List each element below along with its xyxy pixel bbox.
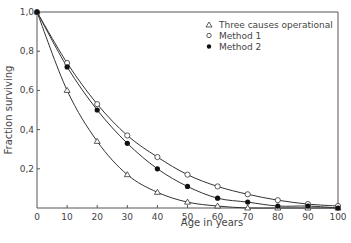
filled-circle-marker [65, 64, 70, 69]
filled-circle-marker [34, 9, 39, 14]
triangle-icon [206, 22, 212, 27]
survival-chart: 0102030405060708090100 0,20,40,60,81,0 A… [0, 0, 351, 243]
filled-circle-marker [155, 166, 160, 171]
legend-label: Method 2 [219, 42, 261, 52]
x-tick-label: 20 [91, 212, 103, 222]
filled-circle-marker [275, 203, 280, 208]
x-axis-label: Age in years [181, 217, 243, 228]
x-tick-label: 70 [242, 212, 254, 222]
filled-circle-icon [207, 44, 211, 48]
x-tick-label: 100 [329, 212, 346, 222]
plot-frame [37, 12, 338, 208]
filled-circle-marker [125, 141, 130, 146]
open-circle-marker [245, 192, 250, 197]
x-tick-label: 80 [272, 212, 284, 222]
filled-circle-marker [245, 200, 250, 205]
series-curves [37, 12, 338, 208]
open-circle-icon [207, 33, 211, 37]
legend-label: Three causes operational [218, 20, 333, 30]
open-circle-marker [95, 102, 100, 107]
y-tick-label: 0,4 [20, 125, 35, 135]
legend-label: Method 1 [219, 31, 261, 41]
x-tick-label: 30 [122, 212, 134, 222]
y-tick-label: 1,0 [20, 7, 35, 17]
legend: Three causes operationalMethod 1Method 2 [206, 20, 333, 52]
y-axis-label: Fraction surviving [3, 66, 14, 155]
x-tick-label: 10 [61, 212, 73, 222]
series-line [37, 12, 338, 208]
open-circle-marker [275, 198, 280, 203]
open-circle-marker [185, 172, 190, 177]
y-tick-label: 0,6 [20, 85, 35, 95]
y-tick-label: 0,8 [20, 46, 35, 56]
filled-circle-marker [185, 184, 190, 189]
filled-circle-marker [95, 107, 100, 112]
filled-circle-marker [215, 196, 220, 201]
y-tick-label: 0,2 [20, 164, 34, 174]
triangle-marker [64, 87, 70, 92]
x-tick-label: 90 [302, 212, 314, 222]
filled-circle-marker [305, 203, 310, 208]
open-circle-marker [215, 184, 220, 189]
series-line [37, 12, 338, 208]
filled-circle-marker [335, 205, 340, 210]
series-markers [34, 9, 341, 211]
x-tick-label: 0 [34, 212, 40, 222]
open-circle-marker [155, 154, 160, 159]
x-tick-label: 40 [152, 212, 164, 222]
open-circle-marker [125, 133, 130, 138]
